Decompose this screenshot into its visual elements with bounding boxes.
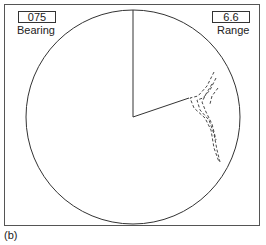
figure-caption: (b) — [4, 229, 17, 241]
radar-echo-coastline — [190, 72, 220, 162]
bearing-cursor-line — [133, 98, 189, 117]
radar-scope — [0, 0, 266, 245]
bearing-readout: 075 — [18, 11, 56, 23]
bearing-label: Bearing — [17, 24, 55, 36]
range-readout: 6.6 — [212, 11, 250, 23]
range-label: Range — [217, 24, 249, 36]
